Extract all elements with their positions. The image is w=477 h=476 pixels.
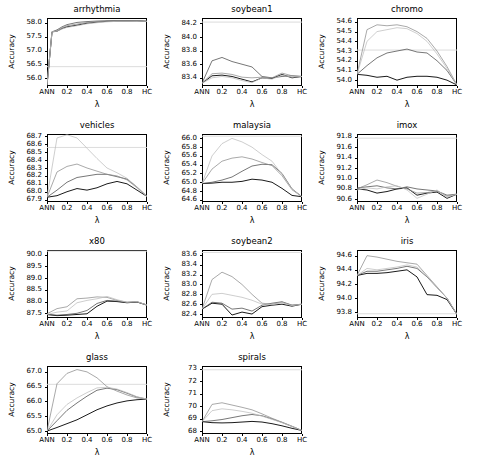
chart-panel-glass: glassAccuracyλ65.065.566.066.567.0ANN0.2… [0, 348, 157, 464]
chart-panel-malaysia: malaysiaAccuracyλ64.664.865.065.265.465.… [155, 116, 312, 232]
data-lines [310, 116, 467, 232]
data-lines [0, 116, 157, 232]
data-lines [310, 232, 467, 348]
series-line [202, 421, 302, 430]
series-line [202, 303, 302, 315]
chart-panel-arrhythmia: arrhythmiaAccuracyλ56.056.557.057.558.0A… [0, 0, 157, 116]
data-lines [310, 0, 467, 116]
chart-panel-imox: imoxAccuracyλ90.690.891.091.291.491.691.… [310, 116, 467, 232]
data-lines [155, 348, 312, 464]
figure-container: arrhythmiaAccuracyλ56.056.557.057.558.0A… [0, 0, 477, 476]
series-line [357, 49, 457, 85]
data-lines [0, 348, 157, 464]
chart-panel-soybean1: soybean1Accuracyλ83.483.683.884.084.2ANN… [155, 0, 312, 116]
chart-panel-soybean2: soybean2Accuracyλ82.482.682.883.083.283.… [155, 232, 312, 348]
series-line [47, 164, 147, 197]
series-line [47, 21, 147, 85]
series-line [357, 265, 457, 315]
series-line [357, 74, 457, 85]
series-line [47, 21, 147, 85]
data-lines [155, 232, 312, 348]
series-line [202, 403, 302, 431]
series-line [47, 387, 147, 431]
chart-panel-vehicles: vehiclesAccuracyλ67.968.068.168.268.368.… [0, 116, 157, 232]
chart-panel-x80: x80Accuracyλ87.588.088.589.089.590.0ANN0… [0, 232, 157, 348]
data-lines [155, 116, 312, 232]
chart-panel-chromo: chromoAccuracyλ54.054.154.254.354.454.55… [310, 0, 467, 116]
series-line [202, 302, 302, 311]
series-line [47, 21, 147, 85]
series-line [357, 256, 457, 315]
series-line [202, 57, 302, 83]
series-line [202, 293, 302, 309]
series-line [47, 296, 147, 314]
series-line [47, 21, 147, 85]
series-line [202, 157, 302, 197]
chart-panel-spirals: spiralsAccuracyλ686970717273ANN0.20.40.6… [155, 348, 312, 464]
series-line [202, 138, 302, 196]
data-lines [0, 0, 157, 116]
chart-panel-iris: irisAccuracyλ93.894.094.294.494.6ANN0.20… [310, 232, 467, 348]
data-lines [0, 232, 157, 348]
data-lines [155, 0, 312, 116]
